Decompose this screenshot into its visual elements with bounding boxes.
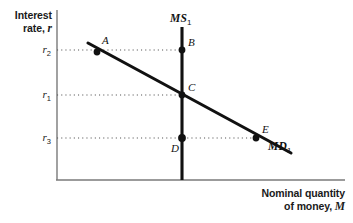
y-axis-title: Interest rate, r bbox=[6, 10, 52, 35]
point-b-label: B bbox=[188, 36, 195, 48]
money-market-figure: Interest rate, r Nominal quantity of mon… bbox=[0, 0, 353, 223]
point-e-dot bbox=[253, 135, 260, 142]
money-supply-label-sub: 1 bbox=[187, 18, 192, 27]
tick-label-r3: r3 bbox=[29, 131, 51, 147]
x-axis-title: Nominal quantity of money, M bbox=[205, 188, 345, 213]
point-d-dot bbox=[178, 134, 186, 142]
y-axis-title-line2: rate, bbox=[23, 22, 45, 34]
money-demand-curve bbox=[88, 43, 291, 153]
point-c-dot bbox=[179, 92, 186, 99]
money-demand-curve-label: MD1 bbox=[268, 140, 292, 156]
tick-label-r1-sub: 1 bbox=[47, 94, 51, 103]
money-demand-label-base: MD bbox=[268, 140, 287, 152]
money-demand-label-sub: 1 bbox=[287, 146, 292, 155]
point-e-label: E bbox=[262, 123, 269, 135]
tick-label-r2-sub: 2 bbox=[47, 49, 51, 58]
tick-label-r2: r2 bbox=[29, 43, 51, 59]
point-a-dot bbox=[94, 49, 101, 56]
point-d-label: D bbox=[171, 142, 179, 154]
y-axis-title-line1: Interest bbox=[15, 9, 52, 21]
point-a-label: A bbox=[102, 34, 109, 46]
x-axis-title-line2: of money, bbox=[284, 200, 332, 212]
tick-label-r1: r1 bbox=[29, 88, 51, 104]
x-axis-variable: M bbox=[335, 200, 345, 212]
x-axis-title-line1: Nominal quantity bbox=[261, 187, 345, 199]
money-supply-curve-label: MS1 bbox=[170, 12, 192, 28]
money-supply-label-base: MS bbox=[170, 12, 187, 24]
y-axis-variable: r bbox=[48, 22, 52, 34]
point-b-dot bbox=[179, 47, 186, 54]
point-c-label: C bbox=[188, 81, 195, 93]
tick-label-r3-sub: 3 bbox=[47, 137, 51, 146]
